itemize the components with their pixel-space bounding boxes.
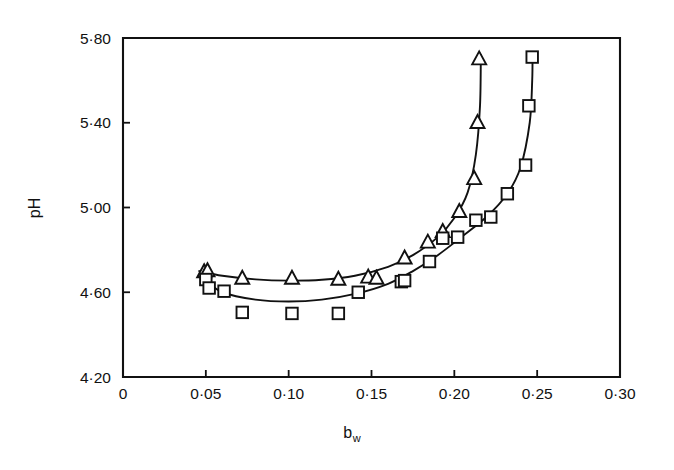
x-axis-title-label: bw: [343, 424, 360, 444]
marker-triangle: [467, 171, 481, 184]
marker-triangle: [452, 204, 466, 217]
marker-square: [523, 100, 535, 112]
marker-square: [502, 188, 513, 200]
x-tick-label: 0·05: [190, 385, 221, 402]
y-tick-label: 5·00: [80, 199, 111, 216]
ph-vs-bw-scatter-chart: 00·050·100·150·200·250·30 4·204·605·005·…: [0, 0, 674, 470]
x-axis-title: bw: [343, 424, 360, 444]
x-tick-label: 0·10: [273, 385, 304, 402]
marker-square: [424, 256, 436, 268]
axes-frame: [123, 38, 620, 377]
x-tick-label: 0·30: [604, 385, 635, 402]
x-tick-label: 0·20: [439, 385, 470, 402]
marker-square: [218, 285, 230, 297]
marker-square: [485, 211, 497, 223]
y-tick-label: 4·20: [80, 369, 111, 386]
marker-square: [470, 214, 482, 226]
plot-frame: [123, 38, 620, 377]
fit-curve-squares: [203, 53, 533, 302]
y-tick-label: 5·80: [80, 30, 111, 47]
marker-square: [526, 51, 538, 63]
marker-square: [286, 308, 298, 320]
marker-square: [399, 275, 411, 287]
marker-triangle: [285, 271, 299, 284]
marker-square: [237, 307, 249, 319]
marker-square: [203, 282, 215, 294]
marker-square: [520, 159, 532, 171]
x-tick-label: 0·25: [522, 385, 553, 402]
marker-square: [452, 231, 464, 243]
marker-triangle: [471, 115, 485, 128]
y-tick-label: 5·40: [80, 114, 111, 131]
fitted-curves: [199, 53, 532, 302]
y-axis-tick-labels: 4·204·605·005·405·80: [80, 30, 111, 386]
x-axis-tick-labels: 00·050·100·150·200·250·30: [119, 385, 636, 402]
chart-figure: 00·050·100·150·200·250·30 4·204·605·005·…: [0, 0, 674, 470]
y-axis-title-label: pH: [26, 198, 43, 218]
x-tick-label: 0: [119, 385, 128, 402]
fit-curve-triangles: [199, 55, 481, 281]
marker-square: [353, 287, 365, 299]
marker-square: [333, 308, 345, 320]
y-axis-title: pH: [26, 198, 43, 218]
y-tick-label: 4·60: [80, 284, 111, 301]
x-tick-label: 0·15: [356, 385, 387, 402]
marker-square: [437, 232, 449, 244]
marker-triangle: [472, 51, 486, 64]
